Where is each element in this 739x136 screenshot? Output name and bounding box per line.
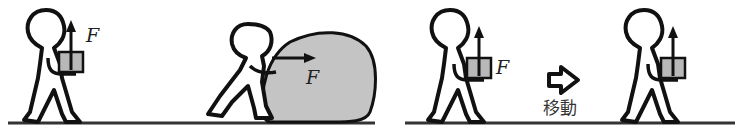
move-label: 移動	[543, 98, 577, 118]
scene-lift-box: F	[24, 10, 100, 122]
scene-push-boulder: F	[208, 24, 376, 122]
force-label: F	[305, 66, 320, 88]
scene-carry-box-before: F	[428, 10, 510, 122]
scene-carry-box-after	[622, 10, 685, 122]
force-label: F	[85, 24, 100, 46]
move-transition: 移動	[543, 67, 578, 118]
physics-work-diagram: F F F 移動	[0, 0, 739, 136]
force-label: F	[495, 56, 510, 78]
right-arrow-icon	[549, 67, 578, 93]
